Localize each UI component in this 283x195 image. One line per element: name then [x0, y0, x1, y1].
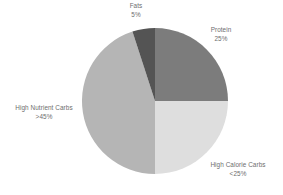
- pie-label-high-nutrient-carbs-value: >45%: [2, 112, 86, 121]
- pie-label-high-nutrient-carbs: High Nutrient Carbs >45%: [2, 103, 86, 121]
- pie-label-high-calorie-carbs: High Calorie Carbs <25%: [196, 160, 280, 178]
- pie-label-fats: Fats 5%: [108, 1, 164, 19]
- pie-label-fats-name: Fats: [108, 1, 164, 10]
- pie-label-protein-name: Protein: [190, 25, 252, 34]
- pie-label-high-calorie-carbs-name: High Calorie Carbs: [196, 160, 280, 169]
- pie-label-fats-value: 5%: [108, 10, 164, 19]
- pie-slice-group: [82, 28, 228, 174]
- pie-chart-figure: Fats 5% Protein 25% High Nutrient Carbs …: [0, 0, 283, 195]
- pie-label-protein: Protein 25%: [190, 25, 252, 43]
- pie-label-high-nutrient-carbs-name: High Nutrient Carbs: [2, 103, 86, 112]
- pie-label-high-calorie-carbs-value: <25%: [196, 169, 280, 178]
- pie-label-protein-value: 25%: [190, 34, 252, 43]
